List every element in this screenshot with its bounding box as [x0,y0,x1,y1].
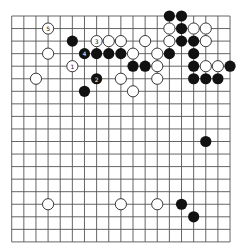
black-stone [188,48,199,59]
black-stone [188,211,199,222]
move-number-label: 4 [83,50,87,57]
black-stone [164,10,175,21]
black-stone [188,36,199,47]
black-stone [176,23,187,34]
white-stone [42,199,53,210]
white-stone [103,36,114,47]
white-stone: 5 [42,23,53,34]
white-stone [200,23,211,34]
white-stone [42,48,53,59]
black-stone [176,199,187,210]
white-stone: 1 [67,61,78,72]
black-stone [164,48,175,59]
white-stone [152,48,163,59]
black-stone: 4 [79,48,90,59]
black-stone [176,36,187,47]
black-stone [103,48,114,59]
white-stone [127,48,138,59]
move-number-label: 5 [46,25,50,32]
white-stone [152,199,163,210]
black-stone [115,48,126,59]
black-stone [188,61,199,72]
white-stone [152,73,163,84]
move-number-label: 3 [95,38,99,45]
black-stone [127,61,138,72]
black-stone [224,61,235,72]
move-number-label: 2 [95,76,99,83]
go-board[interactable]: 42 531 [0,0,244,252]
move-number-label: 1 [70,63,74,70]
black-stone: 2 [91,73,102,84]
white-stone [164,23,175,34]
black-stone [79,86,90,97]
white-stone [152,61,163,72]
white-stone [30,73,41,84]
white-stone [115,73,126,84]
black-stone [212,73,223,84]
white-stone [188,23,199,34]
white-stone [200,36,211,47]
white-stone [127,86,138,97]
black-stone [67,36,78,47]
black-stone [91,48,102,59]
black-stone [140,61,151,72]
white-stone [115,36,126,47]
white-stone [200,61,211,72]
black-stone [176,10,187,21]
black-stone [200,73,211,84]
white-stone [212,61,223,72]
white-stone [140,36,151,47]
white-stone [164,36,175,47]
black-stone [188,73,199,84]
black-stone [200,136,211,147]
white-stone [115,199,126,210]
white-stone: 3 [91,36,102,47]
